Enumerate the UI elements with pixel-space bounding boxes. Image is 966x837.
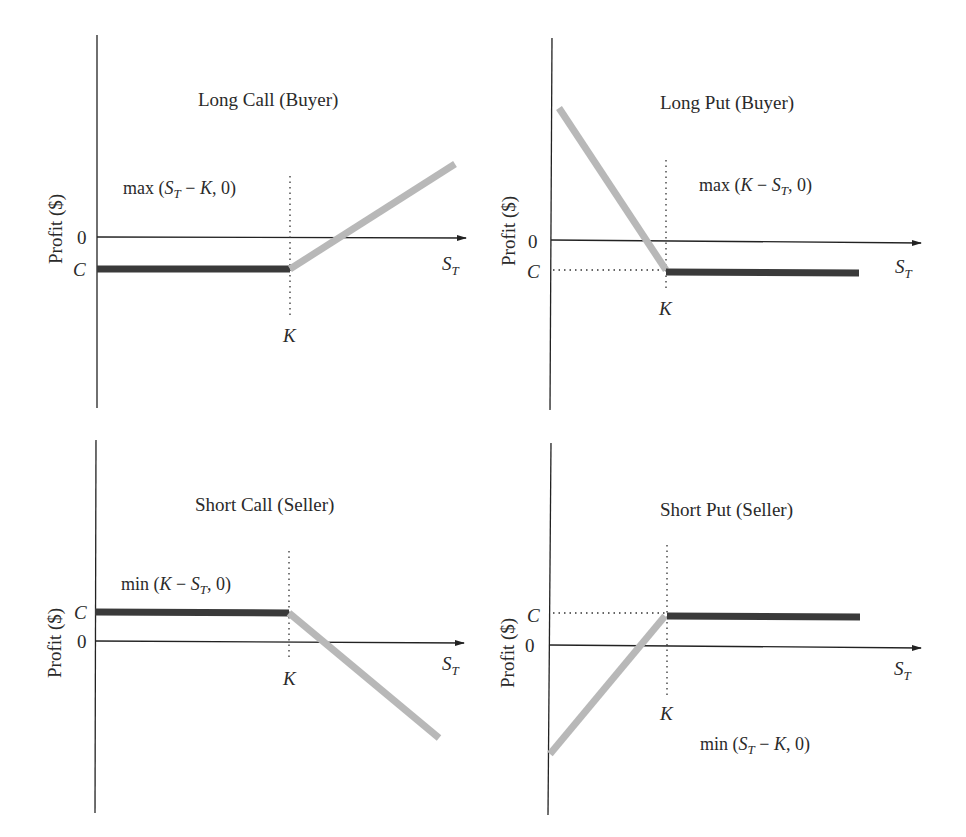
x-axis-label: ST bbox=[442, 253, 460, 278]
payoff-formula: min (K − ST, 0) bbox=[121, 574, 231, 597]
panel-long-put: Long Put (Buyer) max (K − ST, 0) 0 C K S… bbox=[498, 38, 921, 410]
zero-tick-label: 0 bbox=[77, 631, 87, 652]
payoff-formula: min (ST − K, 0) bbox=[700, 734, 810, 757]
k-tick-label: K bbox=[659, 703, 674, 724]
premium-segment bbox=[667, 616, 860, 617]
payoff-formula: max (K − ST, 0) bbox=[699, 175, 812, 198]
k-tick-label: K bbox=[658, 298, 673, 319]
c-tick-label: C bbox=[73, 259, 86, 280]
payoff-segment bbox=[290, 164, 455, 269]
payoff-segment bbox=[550, 616, 665, 754]
payoff-segment bbox=[289, 613, 439, 738]
premium-segment bbox=[666, 272, 859, 273]
x-axis bbox=[549, 645, 921, 648]
zero-tick-label: 0 bbox=[525, 635, 535, 656]
y-axis-label: Profit ($) bbox=[44, 608, 66, 678]
x-axis-label: ST bbox=[894, 658, 912, 683]
c-tick-label: C bbox=[527, 261, 540, 282]
panel-short-put: Short Put (Seller) min (ST − K, 0) C 0 K… bbox=[497, 443, 921, 815]
k-tick-label: K bbox=[282, 325, 297, 346]
y-axis bbox=[548, 443, 551, 815]
c-tick-label: C bbox=[74, 602, 87, 623]
y-axis-label: Profit ($) bbox=[45, 194, 67, 264]
x-axis bbox=[551, 240, 921, 243]
zero-tick-label: 0 bbox=[528, 231, 538, 252]
k-tick-label: K bbox=[282, 668, 297, 689]
y-axis bbox=[95, 440, 96, 813]
panel-short-call: Short Call (Seller) min (K − ST, 0) C 0 … bbox=[44, 440, 464, 813]
y-axis-label: Profit ($) bbox=[498, 196, 520, 266]
panel-title: Short Put (Seller) bbox=[660, 499, 793, 521]
x-axis-label: ST bbox=[442, 653, 460, 678]
x-axis-label: ST bbox=[895, 256, 913, 281]
panel-long-call: Long Call (Buyer) max (ST − K, 0) 0 C K … bbox=[45, 35, 466, 408]
c-tick-label: C bbox=[527, 605, 540, 626]
zero-tick-label: 0 bbox=[77, 227, 87, 248]
option-payoff-diagrams: Long Call (Buyer) max (ST − K, 0) 0 C K … bbox=[0, 0, 966, 837]
y-axis bbox=[550, 38, 552, 410]
payoff-segment bbox=[559, 108, 666, 270]
panel-title: Long Put (Buyer) bbox=[660, 92, 794, 114]
premium-segment bbox=[95, 612, 289, 613]
x-axis bbox=[95, 641, 464, 643]
y-axis-label: Profit ($) bbox=[497, 618, 519, 688]
panel-title: Short Call (Seller) bbox=[195, 494, 334, 516]
payoff-formula: max (ST − K, 0) bbox=[123, 178, 236, 201]
panel-title: Long Call (Buyer) bbox=[198, 89, 338, 111]
x-axis bbox=[97, 237, 466, 238]
